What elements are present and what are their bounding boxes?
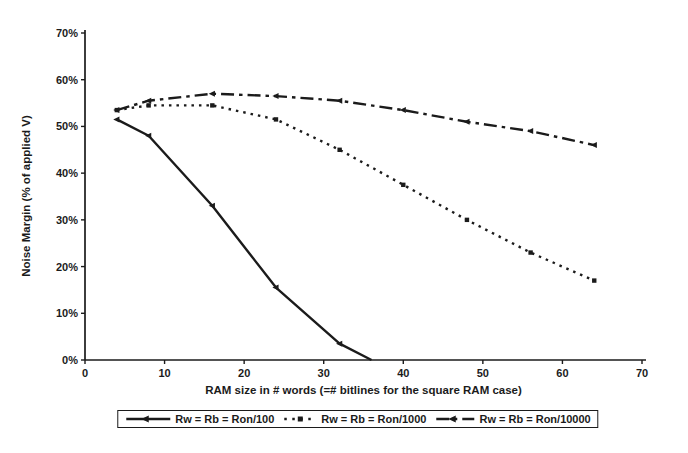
svg-text:40: 40 bbox=[397, 367, 409, 379]
dotted-line-square-marker-icon bbox=[283, 413, 317, 425]
legend-item-ron-100: Rw = Rb = Ron/100 bbox=[125, 413, 274, 425]
legend-item-ron-10000: Rw = Rb = Ron/10000 bbox=[435, 413, 590, 425]
legend-label-ron-100: Rw = Rb = Ron/100 bbox=[175, 413, 274, 425]
svg-text:50%: 50% bbox=[56, 120, 78, 132]
svg-text:70%: 70% bbox=[56, 27, 78, 39]
noise-margin-chart-figure: 0102030405060700%10%20%30%40%50%60%70% N… bbox=[0, 0, 688, 453]
svg-text:50: 50 bbox=[477, 367, 489, 379]
svg-text:70: 70 bbox=[636, 367, 648, 379]
chart-legend: Rw = Rb = Ron/100 Rw = Rb = Ron/1000 Rw … bbox=[117, 410, 598, 428]
plot-area: 0102030405060700%10%20%30%40%50%60%70% bbox=[0, 0, 688, 405]
svg-text:20%: 20% bbox=[56, 261, 78, 273]
dash-dot-line-arrow-marker-icon bbox=[435, 413, 475, 425]
svg-text:0: 0 bbox=[82, 367, 88, 379]
legend-item-ron-1000: Rw = Rb = Ron/1000 bbox=[283, 413, 426, 425]
svg-text:10: 10 bbox=[158, 367, 170, 379]
svg-text:30%: 30% bbox=[56, 214, 78, 226]
svg-text:10%: 10% bbox=[56, 307, 78, 319]
svg-text:30: 30 bbox=[318, 367, 330, 379]
x-axis-title: RAM size in # words (=# bitlines for the… bbox=[85, 384, 642, 396]
legend-label-ron-10000: Rw = Rb = Ron/10000 bbox=[479, 413, 590, 425]
svg-text:20: 20 bbox=[238, 367, 250, 379]
svg-text:60%: 60% bbox=[56, 74, 78, 86]
svg-text:0%: 0% bbox=[62, 354, 78, 366]
y-axis-title: Noise Margin (% of applied V) bbox=[20, 115, 32, 277]
legend-label-ron-1000: Rw = Rb = Ron/1000 bbox=[321, 413, 426, 425]
svg-text:40%: 40% bbox=[56, 167, 78, 179]
solid-line-arrow-marker-icon bbox=[125, 413, 171, 425]
svg-text:60: 60 bbox=[556, 367, 568, 379]
